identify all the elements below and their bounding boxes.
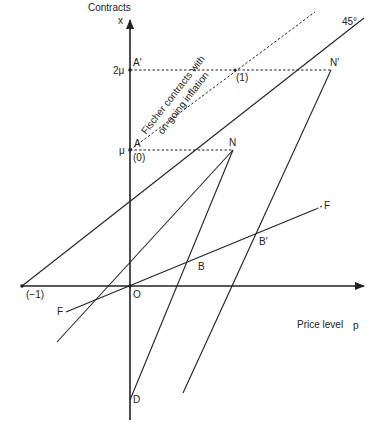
tick-mu: μ (119, 145, 125, 156)
label-n: N (229, 137, 236, 148)
point-a-prime (128, 68, 132, 72)
y-axis-symbol: x (118, 15, 123, 26)
line-o-n (57, 150, 233, 342)
f-line (66, 209, 316, 312)
x-axis-label: Price level (297, 319, 343, 330)
label-n-prime: N′ (330, 57, 339, 68)
label-origin: O (133, 289, 141, 300)
label-45-degrees: 45° (342, 16, 357, 27)
label-zero: (0) (133, 152, 145, 163)
y-axis-label: Contracts (88, 2, 131, 13)
line-d-n (130, 150, 233, 400)
x-axis-symbol: p (353, 320, 359, 331)
tick-minus-one: (−1) (26, 289, 44, 300)
fischer-contracts-diagram: Contracts x Price level p 2μ μ (−1) A′ A… (0, 0, 384, 432)
label-d: D (133, 394, 140, 405)
line-b-prime-n-prime (183, 70, 331, 393)
label-a-prime: A′ (133, 57, 142, 68)
point-minus-one (20, 284, 24, 288)
point-origin (128, 284, 132, 288)
f-line-dash (316, 206, 322, 209)
label-b: B (198, 261, 205, 272)
point-a (128, 148, 132, 152)
label-a: A (134, 138, 141, 149)
label-f-left: F (57, 306, 63, 317)
tick-2mu: 2μ (113, 65, 125, 76)
label-f-right: F (324, 200, 330, 211)
label-one: (1) (236, 72, 248, 83)
label-b-prime: B′ (259, 236, 268, 247)
fischer-annotation: Fischer contracts with on-going inflatio… (139, 53, 217, 144)
